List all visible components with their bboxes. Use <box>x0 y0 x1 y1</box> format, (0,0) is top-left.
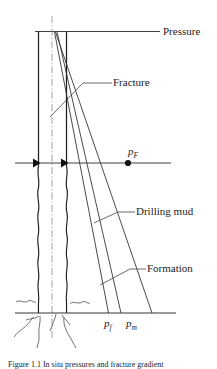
ground-squiggle-left <box>16 300 36 302</box>
formation-pressure-line <box>55 32 109 313</box>
root-squiggle-3 <box>37 316 40 348</box>
fracture-pressure-subscript: F <box>134 151 139 160</box>
drilling-mud-label: Drilling mud <box>136 206 193 217</box>
formation-pressure-symbol: p <box>104 317 110 329</box>
casing-shoe-arrow-right <box>61 159 69 168</box>
mud-pressure-subscript: m <box>132 323 137 332</box>
formation-label: Formation <box>147 263 193 274</box>
fracture-label: Fracture <box>113 77 150 88</box>
wellbore-pressure-diagram <box>0 0 217 369</box>
mud-pressure-symbol: p <box>126 317 132 329</box>
wellbore-right-wall-openhole <box>66 166 67 313</box>
formation-pressure-label: pf <box>104 318 112 329</box>
fracture-gradient-line <box>56 32 153 313</box>
ground-squiggle-right <box>70 301 90 304</box>
formation-leader-line <box>100 269 146 285</box>
root-squiggle-1 <box>14 317 34 337</box>
root-squiggle-4 <box>62 315 70 325</box>
root-squiggle-6 <box>50 314 56 331</box>
root-squiggle-5 <box>64 317 76 348</box>
figure-caption: Figure 1.1 In situ pressures and fractur… <box>8 360 209 369</box>
pressure-label: Pressure <box>163 26 200 37</box>
wellbore-left-wall-openhole <box>38 166 39 313</box>
mud-pressure-label: pm <box>126 318 137 329</box>
formation-pressure-subscript: f <box>110 323 112 332</box>
fracture-pressure-symbol: p <box>128 145 134 157</box>
fracture-pressure-label: pF <box>128 146 138 157</box>
fracture-pressure-point-marker <box>125 160 131 166</box>
casing-shoe-arrow-left <box>33 159 41 168</box>
fracture-leader-line <box>50 83 112 117</box>
